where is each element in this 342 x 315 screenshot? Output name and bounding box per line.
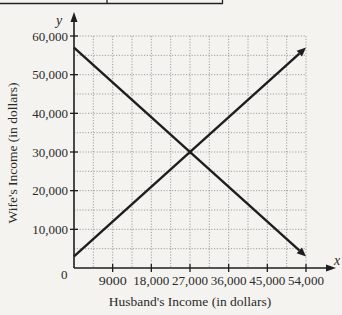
x-tick-label: 45,000: [249, 273, 285, 288]
x-tick-label: 54,000: [288, 273, 324, 288]
axes: [71, 12, 337, 272]
series-line: [74, 54, 299, 257]
origin-label: 0: [61, 267, 68, 282]
income-chart: 900018,00027,00036,00045,00054,00010,000…: [0, 0, 342, 315]
intersection-point: [188, 150, 192, 154]
y-tick-label: 10,000: [32, 222, 68, 237]
table-fragment: [0, 0, 223, 4]
series-line: [74, 48, 299, 251]
x-tick-label: 36,000: [211, 273, 247, 288]
y-tick-label: 50,000: [32, 67, 68, 82]
x-tick-label: 27,000: [172, 273, 208, 288]
y-tick-label: 60,000: [32, 29, 68, 44]
x-tick-label: 9000: [99, 273, 127, 288]
y-tick-label: 20,000: [32, 183, 68, 198]
x-tick-label: 18,000: [133, 273, 169, 288]
tick-labels: 900018,00027,00036,00045,00054,00010,000…: [32, 29, 324, 289]
x-axis-variable: x: [333, 253, 341, 268]
y-tick-label: 40,000: [32, 106, 68, 121]
y-axis-title: Wife's Income (in dollars): [5, 83, 20, 224]
y-axis-arrow-icon: [71, 12, 78, 22]
y-axis-variable: y: [54, 13, 63, 28]
x-axis-title: Husband's Income (in dollars): [109, 294, 272, 309]
y-tick-label: 30,000: [32, 145, 68, 160]
